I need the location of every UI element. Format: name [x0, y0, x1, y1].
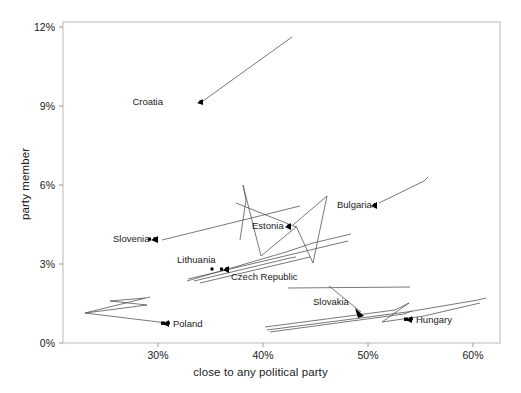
point-label-hungary: Hungary	[416, 314, 452, 325]
trajectory-poland-c	[85, 297, 150, 313]
x-tick-label: 40%	[252, 349, 273, 361]
point-label-poland: Poland	[173, 318, 203, 329]
y-tick-labels: 12% 9% 6% 3% 0%	[34, 21, 55, 349]
x-axis-title: close to any political party	[0, 366, 521, 378]
y-axis-ticks	[59, 27, 63, 343]
marker-lithuania	[210, 267, 213, 270]
trajectory-poland-a	[85, 313, 167, 323]
chart-canvas: 12% 9% 6% 3% 0% 30% 40% 50% 60%	[0, 0, 521, 393]
point-label-slovenia: Slovenia	[113, 233, 150, 244]
x-axis-ticks	[158, 343, 473, 347]
y-tick-label: 9%	[40, 100, 55, 112]
trajectory-lines	[85, 37, 486, 332]
y-tick-label: 3%	[40, 258, 55, 270]
trajectory-hungary-a	[267, 298, 486, 330]
scatter-plot-figure: 12% 9% 6% 3% 0% 30% 40% 50% 60%	[0, 0, 521, 393]
marker-slovenia	[148, 236, 158, 243]
plot-frame	[63, 22, 500, 343]
point-labels: Croatia Bulgaria Estonia Slovenia Lithua…	[113, 96, 452, 329]
y-tick-label: 0%	[40, 337, 55, 349]
trajectory-croatia	[203, 37, 292, 101]
marker-croatia	[197, 99, 203, 105]
x-tick-labels: 30% 40% 50% 60%	[147, 349, 483, 361]
point-label-slovakia: Slovakia	[313, 296, 350, 307]
trajectory-slovakia-a	[288, 287, 410, 288]
y-tick-label: 12%	[34, 21, 55, 33]
y-tick-label: 6%	[40, 179, 55, 191]
point-label-croatia: Croatia	[132, 96, 163, 107]
x-tick-label: 60%	[462, 349, 483, 361]
data-point-markers	[148, 99, 413, 327]
trajectory-bulgaria	[379, 177, 428, 203]
point-label-estonia: Estonia	[252, 220, 284, 231]
point-label-bulgaria: Bulgaria	[337, 199, 373, 210]
point-label-lithuania: Lithuania	[177, 254, 216, 265]
point-label-czech-republic: Czech Republic	[231, 271, 298, 282]
y-axis-title: party member	[19, 104, 31, 264]
marker-bulgaria	[371, 202, 377, 209]
marker-czech-republic	[220, 266, 229, 273]
x-tick-label: 30%	[147, 349, 168, 361]
x-tick-label: 50%	[357, 349, 378, 361]
marker-poland	[161, 320, 170, 327]
marker-hungary	[404, 316, 413, 323]
marker-slovakia	[355, 308, 364, 318]
